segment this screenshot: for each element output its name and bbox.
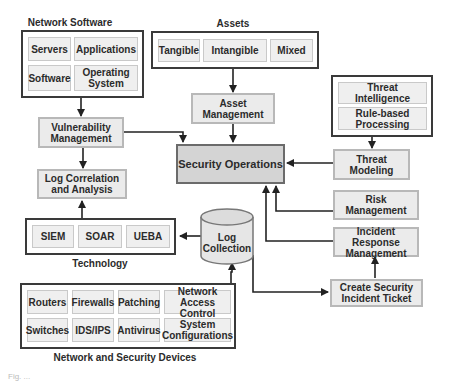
devices-title: Network and Security Devices [50, 352, 200, 363]
node-routers: Routers [27, 290, 68, 314]
node-incident-response: Incident Response Management [333, 227, 419, 257]
threat-sources-group: Threat Intelligence Rule-based Processin… [331, 75, 433, 137]
node-mixed: Mixed [270, 39, 313, 62]
node-rule-based-processing: Rule-based Processing [338, 107, 427, 130]
node-asset-management: Asset Management [191, 93, 275, 124]
node-threat-intelligence: Threat Intelligence [338, 82, 427, 104]
node-risk-management: Risk Management [333, 190, 419, 220]
node-log-correlation: Log Correlation and Analysis [37, 169, 127, 199]
network-software-title: Network Software [20, 17, 120, 28]
figure-caption: Fig. ... [8, 372, 208, 381]
node-vulnerability-management: Vulnerability Management [38, 117, 124, 148]
node-patching: Patching [118, 290, 160, 314]
node-soar: SOAR [78, 225, 122, 248]
node-threat-modeling: Threat Modeling [333, 149, 410, 180]
node-create-incident-ticket: Create Security Incident Ticket [330, 279, 423, 307]
node-tangible: Tangible [158, 39, 200, 62]
assets-group: Tangible Intangible Mixed [151, 31, 319, 69]
node-siem: SIEM [32, 225, 74, 248]
node-system-configurations: System Configurations [164, 318, 231, 342]
node-firewalls: Firewalls [72, 290, 114, 314]
node-security-operations: Security Operations [176, 144, 285, 184]
network-software-group: Servers Applications Software Operating … [21, 30, 144, 98]
node-servers: Servers [28, 37, 71, 61]
node-software: Software [28, 65, 71, 91]
assets-title: Assets [213, 18, 253, 29]
node-ids-ips: IDS/IPS [72, 318, 114, 342]
devices-group: Routers Firewalls Patching Network Acces… [20, 283, 236, 349]
technology-group: SIEM SOAR UEBA [25, 218, 176, 255]
node-intangible: Intangible [203, 39, 267, 62]
node-log-collection: Log Collection [201, 232, 253, 254]
node-network-access-control: Network Access Control [164, 290, 231, 314]
node-antivirus: Antivirus [118, 318, 160, 342]
technology-title: Technology [60, 258, 140, 269]
node-ueba: UEBA [126, 225, 170, 248]
node-switches: Switches [27, 318, 68, 342]
node-operating-system: Operating System [74, 65, 138, 91]
node-applications: Applications [74, 37, 138, 61]
